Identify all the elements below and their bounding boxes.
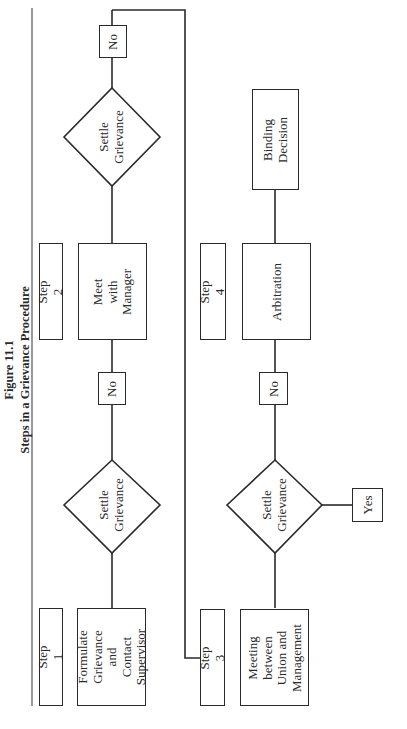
step-3-label: Step 3 xyxy=(200,609,225,706)
binding-decision-box: Binding Decision xyxy=(252,89,299,190)
figure-title: Steps in a Grievance Procedure xyxy=(18,286,34,454)
yes-box: Yes xyxy=(352,488,383,522)
no-box-2: No xyxy=(99,25,127,58)
settle-grievance-decision-2: Settle Grievance xyxy=(72,97,152,177)
no-box-3: No xyxy=(259,372,288,405)
figure-title-block: Figure 11.1 Steps in a Grievance Procedu… xyxy=(4,280,32,460)
union-management-meeting-box: Meeting between Union and Management xyxy=(240,609,309,706)
arbitration-box: Arbitration xyxy=(242,243,311,340)
no-box-1: No xyxy=(98,372,126,405)
meet-with-manager-box: Meet with Manager xyxy=(78,243,147,340)
formulate-grievance-box: Formulate Grievance and Contact Supervis… xyxy=(77,608,146,706)
step-2-label: Step 2 xyxy=(39,243,63,340)
figure-number: Figure 11.1 xyxy=(2,286,18,454)
step-1-label: Step 1 xyxy=(39,608,63,706)
step-4-label: Step 4 xyxy=(200,243,226,340)
settle-grievance-decision-3: Settle Grievance xyxy=(235,465,315,545)
settle-grievance-decision-1: Settle Grievance xyxy=(72,465,152,545)
